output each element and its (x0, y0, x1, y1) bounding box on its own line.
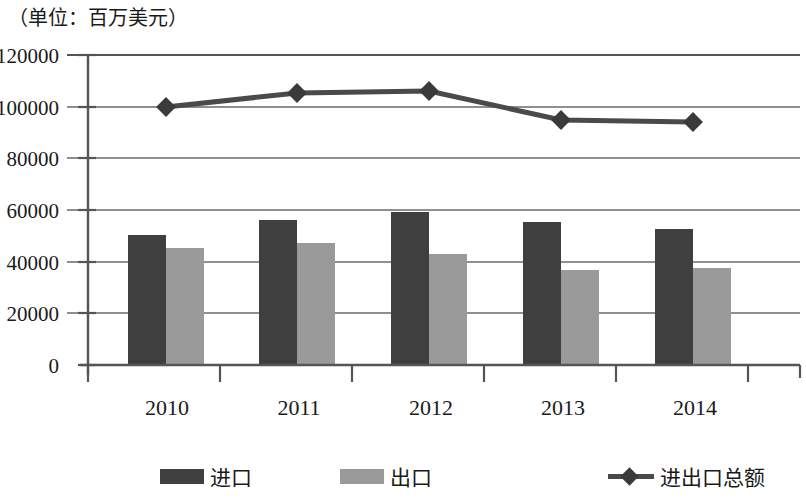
x-axis-ticks (88, 365, 800, 382)
y-tick-label: 20000 (7, 302, 60, 326)
line-marker-2014 (683, 112, 703, 132)
legend-label-export: 出口 (390, 461, 432, 491)
legend-item-import[interactable]: 进口 (160, 461, 252, 491)
bar-group-2012 (391, 212, 467, 365)
line-marker-2012 (419, 81, 439, 101)
bar-import-2010 (128, 235, 166, 365)
y-tick-label: 40000 (7, 251, 60, 275)
x-tick-label: 2013 (541, 395, 585, 420)
legend-swatch-export-icon (340, 469, 384, 484)
legend-item-export[interactable]: 出口 (340, 461, 432, 491)
legend-swatch-import-icon (160, 469, 204, 484)
bar-import-2011 (259, 220, 297, 365)
bar-export-2014 (693, 268, 731, 365)
y-tick-label: 80000 (7, 147, 60, 171)
bar-group-2010 (128, 235, 204, 365)
x-tick-label: 2012 (409, 395, 453, 420)
bar-group-2014 (655, 229, 731, 365)
bar-import-2012 (391, 212, 429, 365)
line-marker-2011 (287, 83, 307, 103)
bar-export-2012 (429, 254, 467, 365)
line-marker-2013 (551, 110, 571, 130)
chart-legend: 进口 出口 进出口总额 (0, 455, 806, 499)
bar-export-2011 (297, 243, 335, 365)
legend-label-total: 进出口总额 (660, 461, 765, 491)
bar-group-2013 (523, 222, 599, 365)
bar-group-2011 (259, 220, 335, 365)
bar-import-2013 (523, 222, 561, 365)
y-tick-label: 100000 (0, 96, 59, 120)
legend-label-import: 进口 (210, 461, 252, 491)
y-axis-tick-labels: 120000 100000 80000 60000 40000 20000 0 (0, 44, 59, 378)
x-tick-label: 2014 (673, 395, 717, 420)
bar-export-2013 (561, 270, 599, 365)
x-axis-tick-labels: 2010 2011 2012 2013 2014 (145, 395, 717, 420)
y-tick-label: 0 (49, 354, 60, 378)
chart-container: （单位：百万美元） 120000 100000 80000 60000 4000… (0, 0, 806, 499)
x-tick-label: 2011 (277, 395, 320, 420)
bar-export-2010 (166, 248, 204, 365)
legend-item-total[interactable]: 进出口总额 (608, 461, 765, 491)
bar-import-2014 (655, 229, 693, 365)
y-tick-label: 120000 (0, 44, 59, 68)
y-tick-label: 60000 (7, 199, 60, 223)
chart-plot-area: 120000 100000 80000 60000 40000 20000 0 (0, 0, 806, 455)
x-tick-label: 2010 (145, 395, 189, 420)
legend-line-marker-total-icon (608, 467, 654, 485)
line-marker-2010 (156, 97, 176, 117)
